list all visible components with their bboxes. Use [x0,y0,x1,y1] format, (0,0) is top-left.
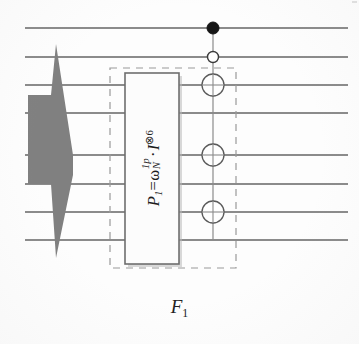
gray-wedge-shape [28,44,73,258]
figure-caption-sub: 1 [182,307,188,320]
open-small-node[interactable] [208,52,219,63]
figure-container: P1=ω1pN·I⊗6 F1 [0,0,359,344]
process-box-rect [125,73,179,264]
filled-dot-node[interactable] [207,22,219,34]
process-box[interactable] [125,73,182,267]
figure-diagram [0,0,359,344]
signal-lines [25,28,348,240]
figure-caption-letter: F [171,296,183,317]
figure-caption: F1 [0,296,359,321]
gray-wedge-path [28,44,73,258]
